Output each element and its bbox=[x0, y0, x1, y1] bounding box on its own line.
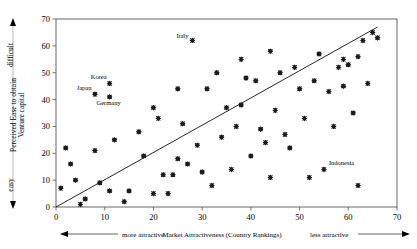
data-point bbox=[156, 116, 160, 120]
x-axis-tick-label: 20 bbox=[149, 212, 158, 222]
y-axis-bottom-note: easy bbox=[6, 178, 15, 192]
y-axis-tick-label: 10 bbox=[42, 175, 51, 185]
data-point-label: Italy bbox=[176, 32, 189, 39]
x-axis-tick-label: 0 bbox=[54, 212, 58, 222]
scatter-plot-figure: 010203040506070010203040506070JapanKorea… bbox=[0, 0, 417, 249]
data-point bbox=[93, 92, 97, 96]
data-point bbox=[98, 181, 102, 185]
data-point bbox=[234, 124, 238, 128]
data-point bbox=[205, 87, 209, 91]
data-point bbox=[93, 149, 97, 153]
data-point bbox=[356, 183, 360, 187]
data-point-label: Korea bbox=[91, 73, 107, 80]
data-point bbox=[239, 57, 243, 61]
x-axis-tick-label: 60 bbox=[344, 212, 353, 222]
data-point-label: Indonesia bbox=[329, 159, 354, 166]
data-point bbox=[127, 189, 131, 193]
data-point bbox=[83, 197, 87, 201]
data-point bbox=[268, 175, 272, 179]
data-point bbox=[263, 140, 267, 144]
data-point bbox=[293, 65, 297, 69]
y-axis-tick-label: 0 bbox=[46, 202, 50, 212]
data-point bbox=[161, 173, 165, 177]
data-point bbox=[220, 135, 224, 139]
data-point bbox=[341, 57, 345, 61]
y-axis-tick-label: 20 bbox=[42, 148, 51, 158]
data-point bbox=[181, 122, 185, 126]
y-axis-label-line2: Venture capital bbox=[17, 92, 26, 137]
y-axis-tick-label: 30 bbox=[42, 121, 51, 131]
x-axis-tick-label: 30 bbox=[198, 212, 207, 222]
data-point bbox=[107, 81, 111, 85]
data-point bbox=[327, 89, 331, 93]
y-axis-tick-label: 50 bbox=[42, 68, 51, 78]
data-point bbox=[366, 81, 370, 85]
data-point bbox=[307, 175, 311, 179]
data-point bbox=[151, 191, 155, 195]
data-point bbox=[78, 202, 82, 206]
data-point bbox=[244, 76, 248, 80]
trend-line bbox=[56, 27, 378, 207]
x-axis-left-note: more attractive bbox=[122, 231, 164, 239]
data-point bbox=[312, 79, 316, 83]
y-axis-arrow-down-icon bbox=[10, 201, 16, 209]
y-axis-tick-label: 60 bbox=[42, 41, 51, 51]
data-point bbox=[122, 200, 126, 204]
x-axis-tick-label: 50 bbox=[295, 212, 304, 222]
data-point bbox=[69, 162, 73, 166]
data-point bbox=[351, 111, 355, 115]
data-point bbox=[297, 87, 301, 91]
x-axis-label: Market Attractiveness (Country Rankings) bbox=[162, 231, 282, 239]
x-axis-right-note: less attractive bbox=[310, 231, 348, 239]
y-axis-top-note: difficult bbox=[6, 42, 15, 67]
x-axis-tick-label: 70 bbox=[393, 212, 402, 222]
data-point bbox=[332, 124, 336, 128]
data-point bbox=[283, 132, 287, 136]
data-point bbox=[356, 55, 360, 59]
data-point bbox=[224, 106, 228, 110]
data-point bbox=[229, 167, 233, 171]
data-point bbox=[171, 173, 175, 177]
data-point bbox=[371, 30, 375, 34]
data-point bbox=[73, 178, 77, 182]
data-point bbox=[166, 191, 170, 195]
data-point-label: Japan bbox=[77, 84, 93, 91]
data-point bbox=[185, 162, 189, 166]
data-point bbox=[259, 127, 263, 131]
x-axis-tick-label: 40 bbox=[247, 212, 256, 222]
data-point bbox=[239, 103, 243, 107]
data-point bbox=[302, 116, 306, 120]
data-point bbox=[268, 49, 272, 53]
data-point-label: Germany bbox=[96, 99, 121, 106]
data-point bbox=[254, 79, 258, 83]
y-axis-tick-label: 40 bbox=[42, 95, 51, 105]
data-point bbox=[336, 65, 340, 69]
data-point bbox=[341, 84, 345, 88]
data-point bbox=[142, 154, 146, 158]
data-point bbox=[210, 183, 214, 187]
data-point bbox=[278, 71, 282, 75]
data-point bbox=[273, 108, 277, 112]
data-point bbox=[112, 138, 116, 142]
y-axis-arrow-up-icon bbox=[10, 18, 16, 26]
x-left-arrow-icon bbox=[60, 231, 68, 237]
data-point bbox=[317, 52, 321, 56]
data-point bbox=[195, 143, 199, 147]
data-point bbox=[190, 38, 194, 42]
data-point bbox=[59, 186, 63, 190]
data-point bbox=[107, 189, 111, 193]
data-point bbox=[322, 167, 326, 171]
data-point bbox=[288, 146, 292, 150]
data-point bbox=[215, 71, 219, 75]
data-point bbox=[249, 154, 253, 158]
x-right-arrow-icon bbox=[402, 231, 410, 237]
data-point bbox=[176, 87, 180, 91]
chart-canvas: 010203040506070010203040506070JapanKorea… bbox=[0, 0, 417, 249]
data-point bbox=[361, 38, 365, 42]
data-point bbox=[64, 146, 68, 150]
data-point bbox=[137, 130, 141, 134]
data-point bbox=[176, 157, 180, 161]
x-axis-tick-label: 10 bbox=[100, 212, 109, 222]
data-point bbox=[375, 36, 379, 40]
data-point bbox=[346, 63, 350, 67]
